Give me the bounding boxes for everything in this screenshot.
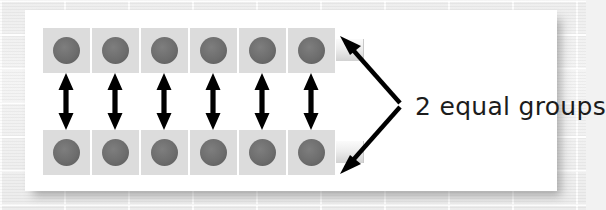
counter-dot-icon <box>102 37 129 64</box>
double-headed-vertical-arrow-icon <box>108 73 123 130</box>
counter-cell <box>190 130 237 175</box>
counter-dot-icon <box>151 37 178 64</box>
double-headed-brace-arrow-icon <box>337 30 417 180</box>
counter-dot-icon <box>53 37 80 64</box>
figure-panel: 2 equal groups <box>25 10 557 191</box>
group-brace <box>337 30 417 180</box>
counter-cell <box>190 28 237 73</box>
counter-row-top-strip <box>43 28 337 73</box>
counter-row-bottom <box>43 130 337 175</box>
counter-row-bottom-strip <box>43 130 337 175</box>
counter-cell <box>239 130 286 175</box>
pairing-arrows-svg <box>43 73 339 130</box>
counter-dot-icon <box>249 139 276 166</box>
counter-cell <box>43 130 90 175</box>
counter-dot-icon <box>249 37 276 64</box>
counter-dot-icon <box>102 139 129 166</box>
counter-dot-icon <box>200 139 227 166</box>
counter-cell <box>141 130 188 175</box>
counter-row-top <box>43 28 337 73</box>
double-headed-vertical-arrow-icon <box>255 73 270 130</box>
double-headed-vertical-arrow-icon <box>157 73 172 130</box>
double-headed-vertical-arrow-icon <box>304 73 319 130</box>
counter-cell <box>288 28 335 73</box>
pairing-arrows-group <box>43 73 339 130</box>
counter-cell <box>92 130 139 175</box>
double-headed-vertical-arrow-icon <box>59 73 74 130</box>
counter-cell <box>239 28 286 73</box>
counter-dot-icon <box>53 139 80 166</box>
counter-cell <box>92 28 139 73</box>
counter-dot-icon <box>298 139 325 166</box>
counter-cell <box>288 130 335 175</box>
double-headed-vertical-arrow-icon <box>206 73 221 130</box>
counter-cell <box>141 28 188 73</box>
counter-dot-icon <box>298 37 325 64</box>
counter-dot-icon <box>200 37 227 64</box>
group-label: 2 equal groups <box>415 92 606 121</box>
counter-cell <box>43 28 90 73</box>
counter-dot-icon <box>151 139 178 166</box>
